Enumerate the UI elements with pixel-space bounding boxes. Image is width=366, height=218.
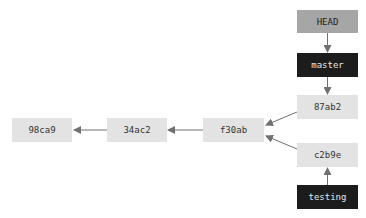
head-pointer: HEAD <box>297 10 358 33</box>
commit-34ac2: 34ac2 <box>107 118 167 142</box>
edge-c2b9e-f30ab <box>266 136 297 149</box>
edge-87ab2-f30ab <box>266 112 297 125</box>
commit-98ca9: 98ca9 <box>12 118 72 142</box>
commit-f30ab: f30ab <box>203 118 264 142</box>
branch-testing: testing <box>297 185 358 209</box>
branch-master: master <box>297 53 358 77</box>
commit-87ab2: 87ab2 <box>297 95 358 119</box>
commit-c2b9e: c2b9e <box>297 143 358 167</box>
